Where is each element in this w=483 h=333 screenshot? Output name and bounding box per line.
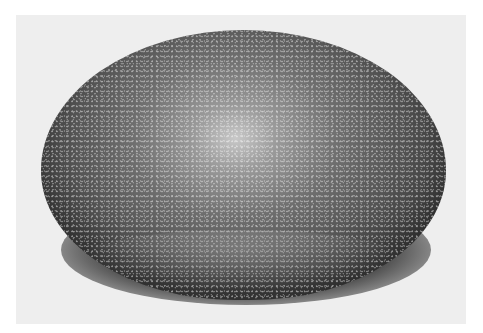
stone-rim-highlight	[76, 230, 406, 290]
photo	[16, 15, 466, 324]
